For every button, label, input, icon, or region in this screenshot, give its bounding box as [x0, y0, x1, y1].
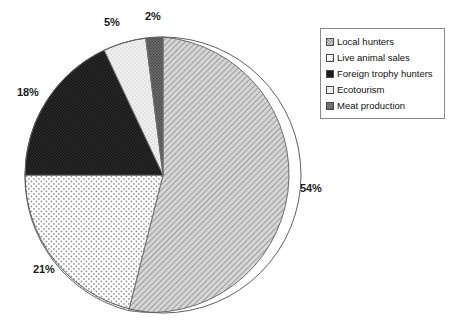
data-label-local-hunters: 54% [300, 182, 322, 194]
legend-item-local-hunters: Local hunters [326, 34, 440, 49]
legend-item-label: Local hunters [337, 36, 394, 47]
data-label-ecotourism: 5% [104, 16, 120, 28]
pie-chart-figure: 54% 21% 18% 5% 2% Local hunters Live ani… [0, 0, 455, 326]
data-label-foreign-trophy-hunters: 18% [17, 86, 39, 98]
legend-item-label: Foreign trophy hunters [337, 68, 433, 79]
legend-item-label: Live animal sales [337, 52, 410, 63]
legend-swatch-icon [326, 86, 334, 94]
legend-item-live-animal-sales: Live animal sales [326, 50, 440, 65]
legend-item-foreign-trophy-hunters: Foreign trophy hunters [326, 66, 440, 81]
legend-swatch-icon [326, 102, 334, 110]
legend-item-label: Meat production [337, 100, 405, 111]
legend-item-meat-production: Meat production [326, 98, 440, 113]
legend-item-label: Ecotourism [337, 84, 385, 95]
data-label-meat-production: 2% [145, 10, 161, 22]
data-label-live-animal-sales: 21% [33, 263, 55, 275]
chart-legend: Local hunters Live animal sales Foreign … [320, 28, 445, 119]
legend-swatch-icon [326, 38, 334, 46]
legend-swatch-icon [326, 70, 334, 78]
legend-swatch-icon [326, 54, 334, 62]
legend-item-ecotourism: Ecotourism [326, 82, 440, 97]
